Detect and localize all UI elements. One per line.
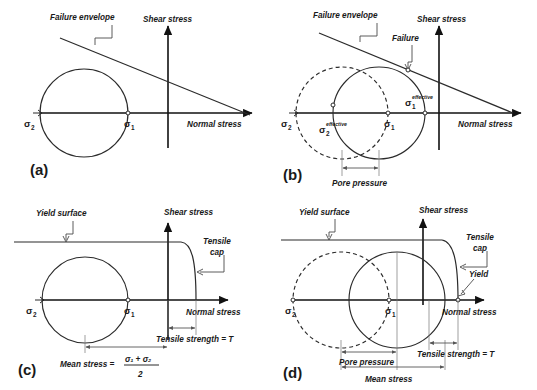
tensile-cap-label-line1: Tensile [466, 233, 494, 242]
sigma1-effective-subscript: 1 [412, 103, 416, 110]
normal-stress-label: Normal stress [442, 308, 497, 317]
shear-stress-label: Shear stress [417, 15, 467, 24]
sigma1-subscript: 1 [131, 311, 135, 318]
sigma1-symbol: σ [124, 118, 131, 129]
yield-label: Yield [469, 270, 489, 279]
sigma2-subscript: 2 [31, 124, 35, 131]
yield-surface-label: Yield surface [299, 208, 350, 217]
sigma2-point [291, 298, 295, 302]
normal-stress-label: Normal stress [458, 120, 513, 129]
sigma1-effective-point [423, 111, 427, 115]
failure-envelope-line [60, 38, 250, 115]
sigma2-symbol: σ [24, 118, 31, 129]
sigma1-point [387, 298, 391, 302]
sigma1-subscript: 1 [391, 124, 395, 131]
panel-a: Failure envelope σ 2 σ 1 Shear stress No… [0, 0, 268, 195]
sigma1-effective-symbol: σ [405, 97, 412, 108]
panel-c: Yield surface Tensile cap σ 2 σ 1 Shear … [0, 195, 268, 390]
shear-stress-label: Shear stress [419, 206, 469, 215]
panel-c-label: (c) [18, 361, 36, 378]
yield-surface-leader [66, 221, 73, 240]
pore-pressure-label: Pore pressure [339, 358, 395, 367]
panel-d-label: (d) [283, 364, 302, 381]
failure-leader [408, 45, 412, 68]
mean-stress-denominator: 2 [137, 370, 143, 379]
sigma1-subscript: 1 [392, 311, 396, 318]
tensile-cap-label-line2: cap [473, 244, 487, 253]
sigma2-tick [33, 110, 42, 116]
shear-stress-label: Shear stress [143, 15, 193, 24]
tensile-cap-label-line2: cap [210, 248, 224, 257]
mohr-circle-figure: Failure envelope σ 2 σ 1 Shear stress No… [0, 0, 537, 390]
sigma2-effective-subscript: 2 [326, 130, 330, 137]
sigma1-point [126, 298, 130, 302]
sigma2-subscript: 2 [292, 311, 296, 318]
sigma2-symbol: σ [281, 118, 288, 129]
panel-b: Failure envelope Failure σ 2 σ 2 effecti… [269, 0, 537, 195]
failure-envelope-leader [95, 25, 112, 45]
sigma1-point [386, 111, 390, 115]
panel-d: Yield surface Tensile cap Yield σ 2 σ 1 … [269, 195, 537, 390]
panel-a-label: (a) [30, 161, 48, 178]
sigma2-symbol: σ [26, 305, 33, 316]
sigma1-subscript: 1 [131, 124, 135, 131]
sigma1-symbol: σ [385, 305, 392, 316]
pore-pressure-label: Pore pressure [332, 179, 388, 188]
tensile-cap-label-line1: Tensile [203, 237, 231, 246]
tensile-strength-label: Tensile strength = T [417, 350, 495, 359]
failure-point [406, 68, 410, 72]
yield-surface-label: Yield surface [36, 209, 87, 218]
sigma1-symbol: σ [384, 118, 391, 129]
mean-stress-numerator: σ₁ + σ₂ [125, 355, 151, 364]
failure-envelope-label: Failure envelope [313, 11, 378, 20]
failure-envelope-label: Failure envelope [50, 13, 115, 22]
tensile-strength-label: Tensile strength = T [156, 335, 234, 344]
sigma2-subscript: 2 [288, 124, 292, 131]
sigma2-effective-symbol: σ [319, 124, 326, 135]
sigma2-tick [35, 297, 44, 303]
sigma1-point [126, 111, 130, 115]
failure-envelope-leader [360, 23, 377, 42]
normal-stress-label: Normal stress [187, 120, 242, 129]
tensile-cap-curve [181, 242, 196, 300]
failure-envelope-line [319, 33, 513, 113]
sigma2-symbol: σ [285, 305, 292, 316]
sigma2-effective-superscript: effective [326, 121, 347, 127]
mean-stress-label: Mean stress = [60, 360, 115, 369]
sigma2-subscript: 2 [33, 311, 37, 318]
panel-b-label: (b) [283, 166, 302, 183]
sigma2-tick [289, 110, 298, 116]
normal-stress-label: Normal stress [186, 308, 241, 317]
failure-label: Failure [392, 34, 419, 43]
shear-stress-label: Shear stress [164, 208, 214, 217]
sigma1-symbol: σ [124, 305, 131, 316]
sigma1-effective-superscript: effective [412, 94, 433, 100]
sigma2-effective-point [331, 103, 335, 107]
mean-stress-label: Mean stress [365, 375, 413, 384]
